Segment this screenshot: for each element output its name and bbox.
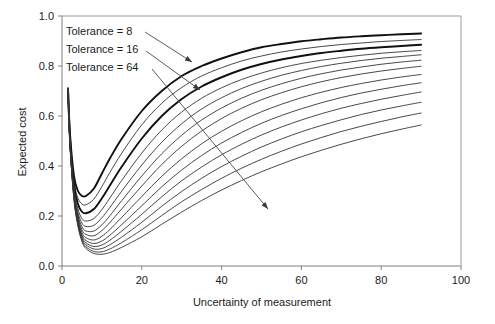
y-tick-label: 0.6 (39, 110, 54, 122)
y-tick-label: 0.8 (39, 60, 54, 72)
x-tick-label: 40 (215, 274, 227, 286)
annotation-label-tolerance-64: Tolerance = 64 (66, 61, 138, 73)
x-tick-label: 0 (59, 274, 65, 286)
x-tick-label: 20 (136, 274, 148, 286)
chart-figure: 0.00.20.40.60.81.0 020406080100 Expected… (0, 0, 495, 324)
x-tick-label: 100 (452, 274, 470, 286)
annotation-label-tolerance-16: Tolerance = 16 (66, 43, 138, 55)
y-tick-label: 0.2 (39, 210, 54, 222)
chart-svg: 0.00.20.40.60.81.0 020406080100 Expected… (0, 0, 495, 324)
y-axis-title: Expected cost (16, 107, 28, 176)
x-tick-label: 80 (375, 274, 387, 286)
y-tick-label: 0.4 (39, 160, 54, 172)
x-tick-label: 60 (295, 274, 307, 286)
x-axis-title: Uncertainty of measurement (193, 296, 331, 308)
annotation-label-tolerance-8: Tolerance = 8 (66, 25, 132, 37)
y-tick-label: 1.0 (39, 10, 54, 22)
y-tick-label: 0.0 (39, 260, 54, 272)
